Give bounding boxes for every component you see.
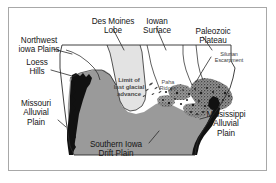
iowa-landform-map — [0, 0, 276, 183]
map-figure: Northwest iowa Plains Des Moines Lobe Io… — [0, 0, 276, 183]
